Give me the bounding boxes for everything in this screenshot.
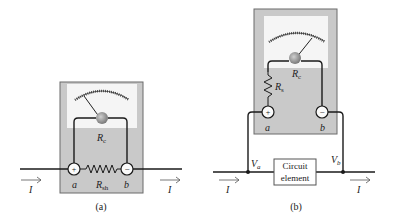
node-b-label: b [320, 122, 325, 133]
node-a-label: a [265, 122, 270, 133]
ammeter-diagram: Rc + − a Rsh b I I (a) [20, 82, 182, 213]
node-a-label: a [72, 179, 77, 190]
svg-text:+: + [266, 108, 271, 117]
caption-a: (a) [95, 201, 106, 213]
pivot [96, 112, 108, 124]
current-out-label: I [167, 184, 172, 195]
circuit-element-label-2: element [281, 173, 310, 183]
caption-b: (b) [290, 201, 302, 213]
current-arrow-out [160, 177, 180, 183]
node-b-label: b [124, 179, 129, 190]
va-label: Va [251, 158, 261, 171]
circuit-element-label-1: Circuit [283, 161, 308, 171]
vb-label: Vb [331, 154, 341, 167]
current-in-label: I [225, 184, 230, 195]
pivot [289, 52, 301, 64]
current-in-label: I [28, 184, 33, 195]
current-arrow-in [219, 177, 239, 183]
svg-text:−: − [319, 107, 324, 117]
current-arrow-in [21, 177, 41, 183]
current-out-label: I [356, 184, 361, 195]
voltmeter-diagram: Rc Rs + − a b Va Vb Circuit element I [213, 9, 375, 213]
svg-text:+: + [72, 165, 77, 174]
svg-text:−: − [124, 164, 129, 174]
junction-a [246, 170, 250, 174]
junction-b [341, 170, 345, 174]
ammeter-voltmeter-diagram: Rc + − a Rsh b I I (a) [0, 0, 393, 223]
current-arrow-out [350, 177, 370, 183]
